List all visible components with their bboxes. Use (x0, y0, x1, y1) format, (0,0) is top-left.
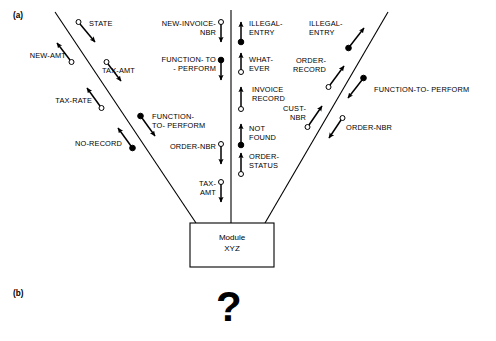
couple-arrow-order-nbr-center-left (219, 142, 224, 165)
label-new-amt: NEW-AMT (0, 51, 66, 60)
label-tax-amt-center-left: TAX- AMT (150, 179, 216, 197)
label-tax-rate: TAX-RATE (0, 96, 92, 105)
question-mark-symbol: ? (216, 286, 242, 328)
couple-arrow-cust-nbr (305, 106, 322, 130)
label-function-to-perform-right: FUNCTION-TO- PERFORM (374, 85, 469, 94)
figure-canvas: (a) (b) STATE NEW-AMT TAX-AMT TAX-RATE F… (0, 0, 496, 341)
label-order-nbr-right: ORDER-NBR (346, 123, 392, 132)
label-order-record: ORDER- RECORD (230, 56, 326, 74)
label-invoice-record: INVOICE RECORD (252, 85, 285, 103)
part-a-label: (a) (13, 11, 23, 20)
label-not-found: NOT FOUND (249, 124, 276, 142)
structure-chart-diagram (0, 0, 496, 341)
label-order-nbr-center-left: ORDER-NBR (110, 142, 216, 151)
label-order-status: ORDER- STATUS (249, 152, 279, 170)
couple-arrow-order-status (239, 153, 244, 177)
label-no-record: NO-RECORD (0, 139, 122, 148)
label-state: STATE (89, 19, 112, 28)
couple-arrow-order-record (326, 66, 344, 90)
module-name-line1: Module (190, 233, 274, 244)
couple-arrow-function-to-perform-right (348, 75, 366, 98)
couple-arrow-function-to-perform-center-left (218, 57, 224, 80)
label-function-to-perform-center-left: FUNCTION- TO - PERFORM (110, 55, 216, 73)
part-b-label: (b) (13, 289, 23, 298)
label-illegal-entry-center: ILLEGAL- ENTRY (249, 19, 283, 37)
module-name-line2: XYZ (190, 244, 274, 255)
couple-arrow-not-found (238, 124, 244, 148)
label-function-to-perform-left: FUNCTION- TO- PERFORM (152, 112, 205, 130)
label-new-invoice-nbr: NEW-INVOICE- NBR (110, 19, 216, 37)
couple-arrow-illegal-entry-center (238, 22, 244, 45)
couple-arrow-illegal-entry-right (346, 28, 364, 51)
couple-arrow-tax-amt-center-left (219, 180, 224, 203)
couple-arrow-new-invoice-nbr (219, 20, 224, 43)
label-illegal-entry-right: ILLEGAL- ENTRY (309, 19, 343, 37)
label-cust-nbr: CUST- NBR (240, 104, 306, 122)
couple-arrow-order-nbr-right (329, 116, 345, 139)
